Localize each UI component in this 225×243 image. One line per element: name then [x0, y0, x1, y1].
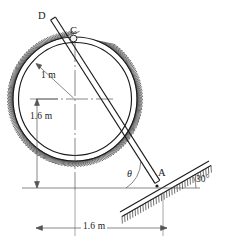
figure-drawing [0, 0, 225, 243]
label-incline-angle: 30° [196, 175, 210, 185]
label-point-d: D [38, 11, 46, 22]
rod-dca [51, 17, 160, 183]
label-horizontal-dimension: 1.6 m [81, 222, 107, 232]
contact-point-a [155, 184, 158, 187]
label-height-dimension: 1.6 m [30, 112, 52, 122]
label-theta: θ [127, 169, 132, 179]
label-point-a: A [158, 168, 166, 179]
radius-leader [36, 64, 74, 99]
mechanics-figure: D C A θ 30° 1 m 1.6 m 1.6 m [0, 0, 225, 243]
label-point-c: C [70, 26, 77, 37]
label-radius-dimension: 1 m [41, 71, 56, 81]
